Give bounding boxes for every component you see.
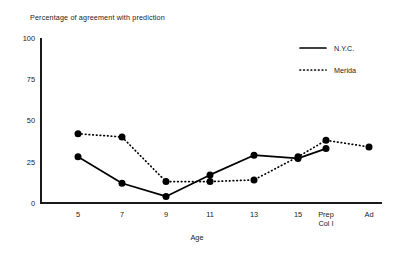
- data-point-marker: [207, 178, 214, 185]
- y-tick-label: 50: [27, 116, 35, 125]
- axis-lines: [41, 38, 382, 203]
- series-layer: [75, 130, 373, 200]
- data-point-marker: [75, 130, 82, 137]
- x-tick-label: 7: [120, 210, 124, 219]
- y-axis-tick-labels: 0255075100: [23, 34, 35, 208]
- data-point-marker: [323, 145, 330, 152]
- data-point-marker: [251, 176, 258, 183]
- x-tick-label: 13: [250, 210, 258, 219]
- x-tick-label: Ad: [364, 210, 373, 219]
- legend-label: N.Y.C.: [334, 44, 354, 53]
- y-tick-label: 25: [27, 158, 35, 167]
- chart-legend: N.Y.C.Merida: [300, 44, 356, 75]
- data-point-marker: [75, 153, 82, 160]
- x-tick-label: 5: [76, 210, 80, 219]
- y-tick-label: 100: [23, 34, 35, 43]
- y-tick-label: 0: [31, 199, 35, 208]
- x-tick-label: 9: [164, 210, 168, 219]
- data-point-marker: [251, 152, 258, 159]
- data-point-marker: [366, 143, 373, 150]
- data-point-marker: [323, 137, 330, 144]
- x-axis-title: Age: [190, 233, 203, 242]
- x-axis-tick-labels: 579111315PrepCol IAd: [76, 210, 374, 228]
- data-point-marker: [295, 153, 302, 160]
- x-tick-label: 11: [206, 210, 214, 219]
- y-tick-label: 75: [27, 75, 35, 84]
- data-point-marker: [207, 171, 214, 178]
- data-point-marker: [119, 134, 126, 141]
- data-point-marker: [119, 180, 126, 187]
- x-tick-label: 15: [294, 210, 302, 219]
- x-tick-label: PrepCol I: [318, 210, 334, 228]
- plot-canvas: 0255075100 579111315PrepCol IAd Age N.Y.…: [0, 0, 395, 254]
- data-point-marker: [163, 178, 170, 185]
- series-line-n-y-c: [78, 149, 326, 197]
- data-point-marker: [163, 193, 170, 200]
- chart-figure: Percentage of agreement with prediction …: [0, 0, 395, 254]
- legend-label: Merida: [334, 66, 356, 75]
